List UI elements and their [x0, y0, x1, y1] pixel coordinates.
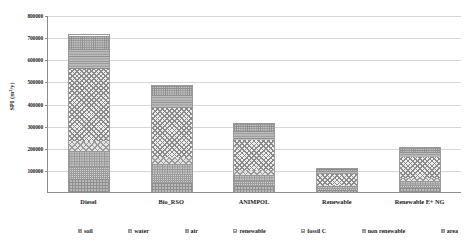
bar-segment-water: [152, 174, 192, 182]
bar-animpol[interactable]: [233, 123, 275, 192]
legend-swatch-icon: [301, 229, 305, 233]
x-axis-category-labels: DieselBio_RSOANIMPOLRenewableRenewable E…: [47, 198, 461, 212]
legend-label: air: [191, 228, 198, 234]
legend-label: renewable: [239, 228, 265, 234]
chart-legend: soilwaterairrenewablefossil Cnon renewab…: [78, 225, 458, 237]
x-axis-label: Renewable: [295, 198, 378, 212]
bar-slot: [213, 16, 296, 192]
bar-slot: [48, 16, 131, 192]
y-axis-tick-label: 100000: [27, 168, 43, 174]
legend-swatch-icon: [78, 229, 82, 233]
bar-segment-fossil-c: [69, 69, 109, 142]
legend-swatch-icon: [441, 229, 445, 233]
bar-segment-renewable: [69, 141, 109, 151]
legend-item-area[interactable]: area: [441, 228, 458, 234]
bar-segment-air: [152, 164, 192, 175]
bar-slot: [296, 16, 379, 192]
y-axis-tick-label: 800000: [27, 13, 43, 19]
legend-label: soil: [84, 228, 93, 234]
legend-label: non renewable: [368, 228, 405, 234]
bar-segment-soil: [69, 179, 109, 192]
legend-label: area: [447, 228, 458, 234]
y-axis-tick-label: 400000: [27, 102, 43, 108]
y-axis-tick-label: 600000: [27, 57, 43, 63]
y-axis-title: SPI (m²/y): [2, 0, 20, 193]
legend-item-water[interactable]: water: [128, 228, 149, 234]
bar-segment-area: [69, 36, 109, 49]
bar-segment-non-renewable: [234, 131, 274, 140]
bar-segment-soil: [234, 186, 274, 192]
bar-segment-soil: [400, 188, 440, 192]
bar-segment-non-renewable: [69, 49, 109, 69]
bar-segment-fossil-c: [317, 174, 357, 184]
x-axis-label: ANIMPOL: [213, 198, 296, 212]
bar-segment-non-renewable: [152, 95, 192, 109]
legend-label: water: [134, 228, 149, 234]
legend-item-non-renewable[interactable]: non renewable: [362, 228, 405, 234]
bar-segment-soil: [317, 190, 357, 192]
y-axis-tick-label: 200000: [27, 146, 43, 152]
legend-label: fossil C: [307, 228, 326, 234]
legend-swatch-icon: [185, 229, 189, 233]
legend-item-air[interactable]: air: [185, 228, 198, 234]
bar-segment-fossil-c: [234, 140, 274, 171]
y-axis-tick-label: 300000: [27, 124, 43, 130]
bar-segment-fossil-c: [152, 108, 192, 157]
bar-segment-area: [152, 86, 192, 95]
legend-item-soil[interactable]: soil: [78, 228, 93, 234]
bar-renewable[interactable]: [316, 168, 358, 192]
bar-bio-rso[interactable]: [151, 85, 193, 192]
bar-segment-air: [69, 151, 109, 166]
bar-segment-water: [69, 167, 109, 179]
y-axis-title-text: SPI (m²/y): [8, 82, 15, 110]
plot-area: 8000007000006000005000004000003000002000…: [47, 16, 461, 193]
y-axis-tick-label: 700000: [27, 35, 43, 41]
bars-layer: [48, 16, 461, 192]
bar-renewable-e-ng[interactable]: [399, 147, 441, 192]
legend-item-fossil-c[interactable]: fossil C: [301, 228, 326, 234]
bar-segment-soil: [152, 183, 192, 192]
x-axis-label: Bio_RSO: [130, 198, 213, 212]
y-axis-tick-label: 500000: [27, 79, 43, 85]
legend-item-renewable[interactable]: renewable: [233, 228, 265, 234]
x-axis-label: Diesel: [47, 198, 130, 212]
bar-slot: [378, 16, 461, 192]
legend-swatch-icon: [362, 229, 366, 233]
bar-slot: [131, 16, 214, 192]
bar-segment-fossil-c: [400, 157, 440, 178]
legend-swatch-icon: [128, 229, 132, 233]
legend-swatch-icon: [233, 229, 237, 233]
bar-diesel[interactable]: [68, 34, 110, 192]
x-axis-label: Renewable E+ NG: [378, 198, 461, 212]
spi-bar-chart: SPI (m²/y) 80000070000060000050000040000…: [0, 0, 464, 247]
